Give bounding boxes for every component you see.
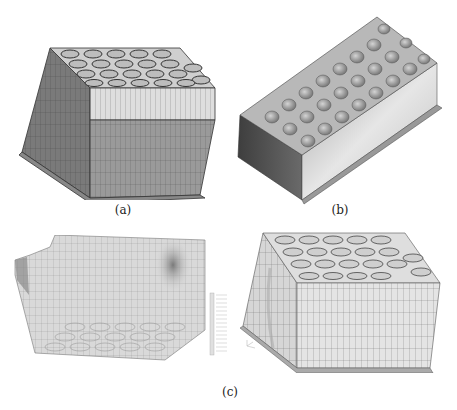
caption-c: (c) <box>210 385 250 399</box>
deformed-mesh-contour-figure <box>5 235 235 370</box>
caption-a: (a) <box>103 203 143 217</box>
deformed-honeycomb-mesh-figure <box>235 228 450 373</box>
panel-a <box>15 40 225 200</box>
honeycomb-rendered-figure-b <box>232 5 452 205</box>
axis-triad-icon <box>247 340 255 348</box>
panel-c-right <box>235 228 450 373</box>
panel-c-left <box>5 235 235 370</box>
honeycomb-mesh-figure-a <box>15 40 225 200</box>
panel-b <box>232 5 452 205</box>
contour-legend <box>210 293 227 355</box>
caption-b: (b) <box>320 203 360 217</box>
